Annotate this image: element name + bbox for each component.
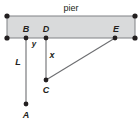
pier-corner-dot-bottom-left: [4, 35, 9, 40]
pier-geometry-diagram: pier B D E C A L x y: [0, 0, 140, 123]
point-label-D: D: [43, 24, 50, 34]
pier-corner-dot-top-right: [132, 13, 137, 18]
pier-title-label: pier: [63, 3, 78, 13]
point-label-A: A: [22, 110, 30, 120]
point-dot-A: [24, 102, 29, 107]
diagram-canvas: pier B D E C A L x y: [0, 0, 140, 123]
segment-label-L: L: [15, 57, 21, 67]
point-dot-B: [24, 36, 29, 41]
point-label-C: C: [43, 85, 50, 95]
point-label-E: E: [113, 24, 120, 34]
point-label-B: B: [23, 24, 30, 34]
segment-CE: [46, 38, 115, 80]
pier-corner-dot-top-left: [4, 13, 9, 18]
segment-label-x: x: [48, 50, 55, 60]
point-dot-E: [113, 36, 118, 41]
point-dot-C: [44, 78, 49, 83]
pier-corner-dot-bottom-right: [132, 35, 137, 40]
point-dot-D: [44, 36, 49, 41]
segment-label-y: y: [31, 39, 37, 48]
